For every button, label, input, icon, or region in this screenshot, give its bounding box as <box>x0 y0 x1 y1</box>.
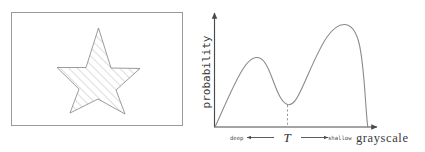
probability-density-curve <box>215 24 368 127</box>
figure-root: probability grayscale T deep shallow <box>0 0 425 152</box>
star-image-svg <box>0 0 200 152</box>
deep-region-label: deep <box>230 135 244 142</box>
threshold-label: T <box>283 130 291 145</box>
x-axis-label: grayscale <box>356 131 409 145</box>
probability-chart-svg: probability grayscale T deep shallow <box>200 0 425 152</box>
probability-histogram-plot: probability grayscale T deep shallow <box>200 0 425 152</box>
shallow-region-label: shallow <box>328 135 352 141</box>
y-axis-label: probability <box>200 35 213 108</box>
hatched-star-image-panel <box>0 0 200 152</box>
